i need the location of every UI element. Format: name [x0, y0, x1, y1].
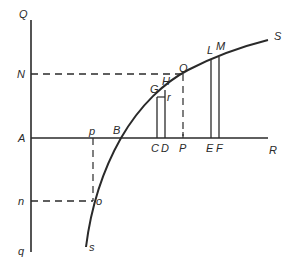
label-N: N — [17, 69, 25, 80]
label-R: R — [269, 145, 277, 156]
diagram-svg — [0, 0, 293, 270]
label-C: C — [151, 143, 159, 154]
label-q: q — [18, 246, 24, 257]
label-B: B — [113, 125, 120, 136]
label-G: G — [150, 84, 159, 95]
label-Q: Q — [19, 9, 28, 20]
diagram-canvas: Q N A n q p B C D P E F R G H r O L M S … — [0, 0, 293, 270]
label-o: o — [96, 196, 102, 207]
label-P: P — [179, 143, 186, 154]
label-r: r — [167, 92, 171, 103]
label-A: A — [18, 133, 25, 144]
label-p: p — [89, 126, 95, 137]
label-D: D — [161, 143, 169, 154]
label-M: M — [216, 41, 225, 52]
label-s: s — [89, 242, 95, 253]
label-F: F — [216, 143, 223, 154]
label-O: O — [179, 63, 188, 74]
label-E: E — [206, 143, 213, 154]
label-H: H — [162, 76, 170, 87]
label-L: L — [207, 45, 213, 56]
label-S: S — [274, 31, 281, 42]
curve-sS — [86, 40, 268, 247]
label-n: n — [18, 196, 24, 207]
